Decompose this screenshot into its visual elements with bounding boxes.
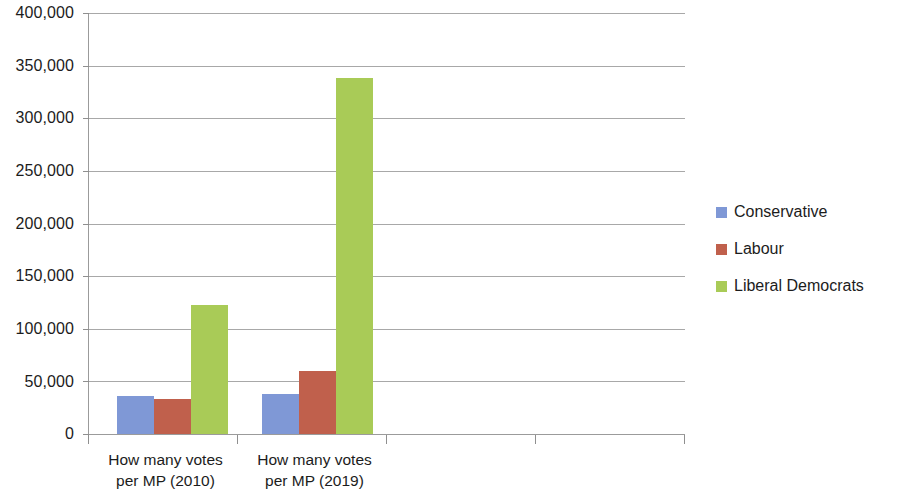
bar-conservative-2010 — [117, 396, 154, 434]
legend-item-labour[interactable]: Labour — [714, 237, 899, 274]
legend: Conservative Labour Liberal Democrats — [714, 200, 899, 311]
bar-labour-2019 — [299, 371, 336, 434]
y-axis-tick-label: 150,000 — [0, 268, 74, 284]
legend-label: Conservative — [734, 200, 827, 224]
y-axis-tick-label: 350,000 — [0, 58, 74, 74]
x-axis-tick — [535, 435, 536, 444]
x-axis-tick — [88, 435, 89, 444]
y-axis-tick-label: 400,000 — [0, 5, 74, 21]
legend-swatch-icon — [716, 207, 727, 218]
y-axis-tick-label: 50,000 — [0, 374, 74, 390]
x-axis-category-label: How many votes per MP (2019) — [237, 449, 392, 491]
y-axis-labels: 400,000 350,000 300,000 250,000 200,000 … — [0, 0, 80, 498]
bars-layer — [88, 13, 685, 434]
y-axis-tick-label: 200,000 — [0, 216, 74, 232]
bar-libdem-2010 — [191, 305, 228, 434]
legend-label: Liberal Democrats — [734, 274, 864, 298]
y-axis-tick-label: 300,000 — [0, 110, 74, 126]
legend-item-conservative[interactable]: Conservative — [714, 200, 899, 237]
bar-conservative-2019 — [262, 394, 299, 434]
y-axis-tick-label: 0 — [0, 426, 74, 442]
legend-label: Labour — [734, 237, 784, 261]
bar-labour-2010 — [154, 399, 191, 434]
x-axis-tick — [386, 435, 387, 444]
x-axis-category-label: How many votes per MP (2010) — [88, 449, 243, 491]
y-axis-tick-label: 250,000 — [0, 163, 74, 179]
legend-item-liberal-democrats[interactable]: Liberal Democrats — [714, 274, 899, 311]
y-axis-tick-label: 100,000 — [0, 321, 74, 337]
bar-libdem-2019 — [336, 78, 373, 434]
x-axis-tick — [237, 435, 238, 444]
legend-swatch-icon — [716, 281, 727, 292]
legend-swatch-icon — [716, 244, 727, 255]
x-axis-tick — [684, 435, 685, 444]
bar-chart: 400,000 350,000 300,000 250,000 200,000 … — [0, 0, 899, 498]
